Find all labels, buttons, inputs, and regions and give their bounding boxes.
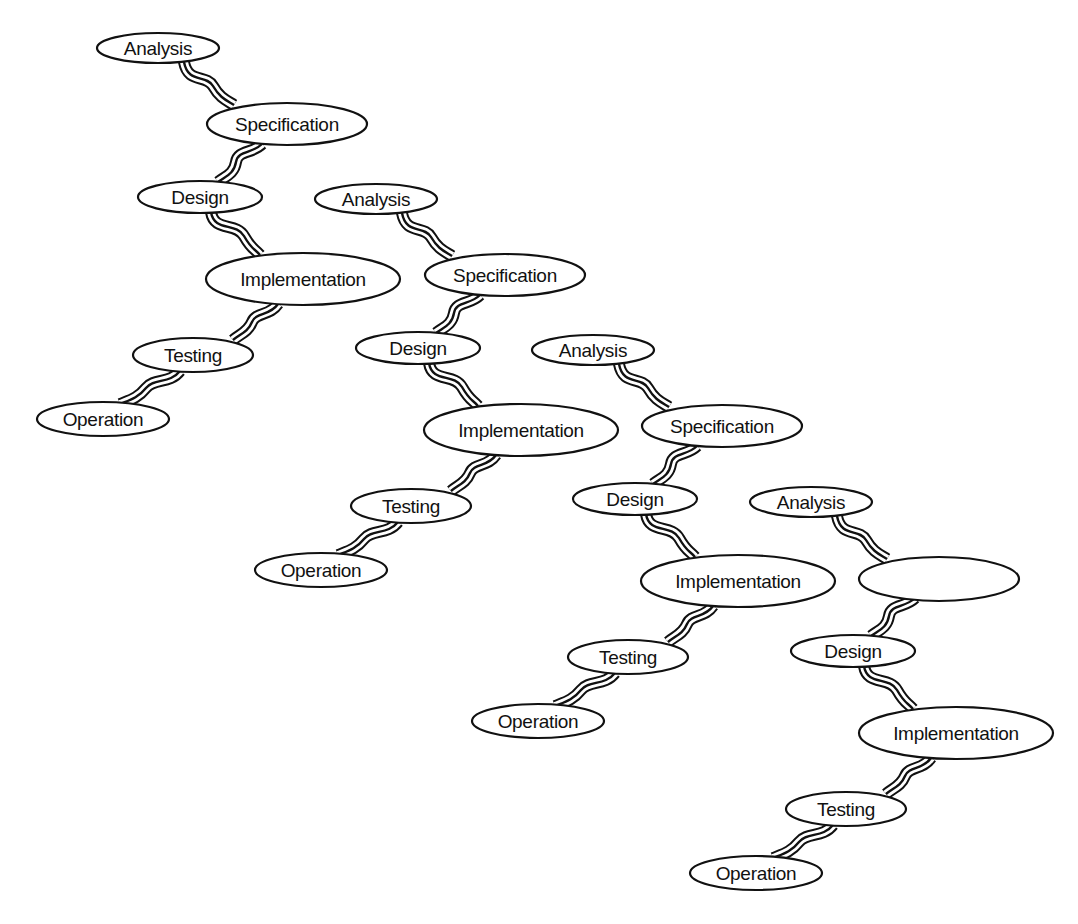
stage-label: Design bbox=[606, 489, 663, 510]
stage-implementation: Implementation bbox=[641, 555, 835, 607]
stage-label: Specification bbox=[670, 416, 774, 437]
stage-label: Design bbox=[824, 641, 881, 662]
stage-label: Analysis bbox=[342, 189, 410, 210]
stage-label: Analysis bbox=[559, 340, 627, 361]
stage-operation: Operation bbox=[690, 856, 822, 890]
stage-implementation: Implementation bbox=[206, 253, 400, 305]
stage-design: Design bbox=[356, 332, 480, 364]
process-chain-3: Analysis Specification Design Implementa… bbox=[472, 335, 835, 738]
stage-design: Design bbox=[573, 483, 697, 515]
stage-label: Analysis bbox=[777, 492, 845, 513]
stage-label: Operation bbox=[716, 863, 797, 884]
stage-analysis: Analysis bbox=[315, 184, 437, 214]
stage-label: Implementation bbox=[458, 420, 584, 441]
stage-label: Testing bbox=[164, 345, 222, 366]
stage-label: Operation bbox=[281, 560, 362, 581]
process-chain-2: Analysis Specification Design Implementa… bbox=[255, 184, 618, 587]
stage-label: Design bbox=[389, 338, 446, 359]
stage-design: Design bbox=[791, 635, 915, 667]
stage-label: Implementation bbox=[675, 571, 801, 592]
stage-design: Design bbox=[138, 181, 262, 213]
stage-specification: Specification bbox=[642, 405, 802, 447]
process-chain-1: Analysis Specification Design Implementa… bbox=[37, 33, 400, 436]
stage-operation: Operation bbox=[472, 704, 604, 738]
stage-label: Analysis bbox=[124, 38, 192, 59]
stage-label: Operation bbox=[498, 711, 579, 732]
stage-label: Testing bbox=[599, 647, 657, 668]
stage-implementation: Implementation bbox=[424, 404, 618, 456]
stage-testing: Testing bbox=[133, 338, 253, 372]
stage-label: Implementation bbox=[240, 269, 366, 290]
stage-label: Testing bbox=[382, 496, 440, 517]
stage-label: Design bbox=[171, 187, 228, 208]
stage-operation: Operation bbox=[255, 553, 387, 587]
stage-analysis: Analysis bbox=[750, 487, 872, 517]
stage-label: Specification bbox=[453, 265, 557, 286]
stage-analysis: Analysis bbox=[532, 335, 654, 365]
stage-label: Operation bbox=[63, 409, 144, 430]
stage-testing: Testing bbox=[568, 640, 688, 674]
stage-label: Testing bbox=[817, 799, 875, 820]
stage-specification: Specification bbox=[425, 254, 585, 296]
stage-operation: Operation bbox=[37, 402, 169, 436]
process-diagram: Analysis Specification Design Implementa… bbox=[0, 0, 1078, 924]
stage-implementation: Implementation bbox=[859, 707, 1053, 759]
stage-label: Implementation bbox=[893, 723, 1019, 744]
stage-testing: Testing bbox=[786, 792, 906, 826]
stage-label: Specification bbox=[235, 114, 339, 135]
stage-analysis: Analysis bbox=[97, 33, 219, 63]
stage-blank bbox=[859, 557, 1019, 601]
process-chain-4: Analysis Design Implementation Testing O… bbox=[690, 487, 1053, 890]
stage-specification: Specification bbox=[207, 103, 367, 145]
stage-testing: Testing bbox=[351, 489, 471, 523]
